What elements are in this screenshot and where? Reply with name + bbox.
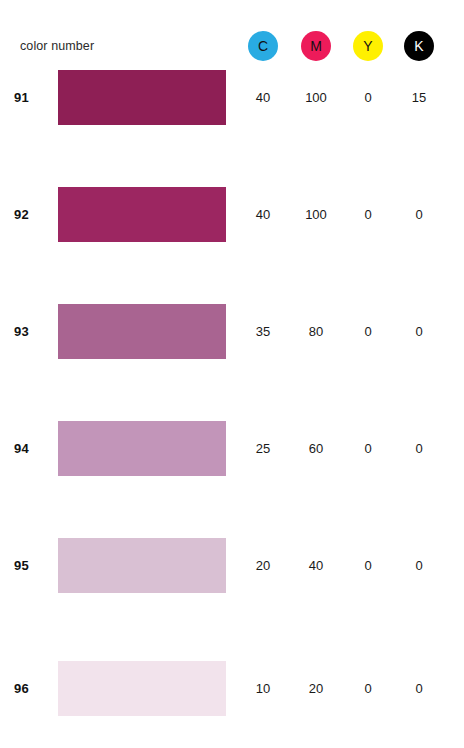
value-c: 40 — [235, 187, 291, 242]
value-y: 0 — [340, 538, 396, 593]
value-k: 0 — [391, 304, 447, 359]
swatch-row: 924010000 — [0, 187, 464, 242]
ink-circle-cyan: C — [248, 31, 278, 61]
value-m: 40 — [288, 538, 344, 593]
value-c: 25 — [235, 421, 291, 476]
value-c: 20 — [235, 538, 291, 593]
value-y: 0 — [340, 304, 396, 359]
value-m: 80 — [288, 304, 344, 359]
swatch-row: 9140100015 — [0, 70, 464, 125]
value-c: 10 — [235, 661, 291, 716]
row-number-label: 94 — [14, 421, 50, 476]
swatch-row: 94256000 — [0, 421, 464, 476]
color-swatch — [58, 187, 226, 242]
value-k: 15 — [391, 70, 447, 125]
chart-header: color number CMYK — [0, 0, 464, 70]
ink-letter: Y — [363, 39, 372, 53]
row-number-label: 96 — [14, 661, 50, 716]
value-m: 100 — [288, 70, 344, 125]
row-number-label: 93 — [14, 304, 50, 359]
value-y: 0 — [340, 70, 396, 125]
value-k: 0 — [391, 538, 447, 593]
value-y: 0 — [340, 187, 396, 242]
row-number-label: 92 — [14, 187, 50, 242]
ink-circle-black: K — [404, 31, 434, 61]
value-k: 0 — [391, 421, 447, 476]
value-y: 0 — [340, 421, 396, 476]
swatch-row: 93358000 — [0, 304, 464, 359]
color-swatch — [58, 421, 226, 476]
swatch-row: 96102000 — [0, 661, 464, 716]
ink-letter: K — [414, 39, 423, 53]
color-swatch — [58, 538, 226, 593]
ink-circle-magenta: M — [301, 31, 331, 61]
value-k: 0 — [391, 187, 447, 242]
ink-letter: M — [310, 39, 322, 53]
value-k: 0 — [391, 661, 447, 716]
value-m: 100 — [288, 187, 344, 242]
value-m: 20 — [288, 661, 344, 716]
row-number-label: 95 — [14, 538, 50, 593]
swatch-row: 95204000 — [0, 538, 464, 593]
ink-circle-yellow: Y — [353, 31, 383, 61]
value-c: 40 — [235, 70, 291, 125]
cmyk-color-chart: color number CMYK 9140100015924010000933… — [0, 0, 464, 748]
color-swatch — [58, 304, 226, 359]
color-swatch — [58, 70, 226, 125]
value-y: 0 — [340, 661, 396, 716]
value-m: 60 — [288, 421, 344, 476]
ink-letter: C — [258, 39, 268, 53]
color-swatch — [58, 661, 226, 716]
row-number-label: 91 — [14, 70, 50, 125]
value-c: 35 — [235, 304, 291, 359]
color-number-label: color number — [20, 39, 94, 53]
